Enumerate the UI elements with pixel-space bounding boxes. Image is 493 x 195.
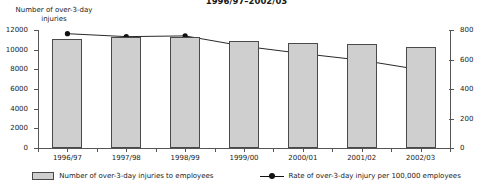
x-tick-boundary	[215, 148, 216, 152]
y-tick-label-left: 0	[24, 144, 28, 152]
y-tick-label-left: 6000	[10, 85, 28, 93]
x-tick	[303, 148, 304, 152]
y-tick-label-left: 12000	[6, 26, 28, 34]
y-axis-title-left: Number of over-3-day injuries	[8, 6, 100, 24]
chart-container: 1996/97–2002/03 Number of over-3-day inj…	[0, 0, 493, 195]
y-tick-label-left: 2000	[10, 124, 28, 132]
y-tick-label-left: 8000	[10, 65, 28, 73]
y-tick-right: 800	[449, 30, 454, 31]
chart-legend: Number of over-3-day injuries to employe…	[0, 172, 493, 180]
x-tick	[244, 148, 245, 152]
x-tick	[67, 148, 68, 152]
x-tick	[421, 148, 422, 152]
x-tick	[185, 148, 186, 152]
legend-bar-swatch-icon	[32, 172, 54, 180]
y-tick-label-left: 10000	[6, 46, 28, 54]
plot-area: 0200040006000800010000120000200400600800…	[38, 30, 450, 148]
bar	[229, 41, 259, 148]
x-tick	[362, 148, 363, 152]
y-tick-left: 4000	[34, 109, 38, 110]
y-tick-right: 400	[449, 89, 454, 90]
x-tick-label: 1997/98	[112, 154, 141, 162]
legend-line-marker-icon	[260, 172, 284, 180]
y-tick-left: 8000	[34, 69, 38, 70]
y-tick-left: 6000	[34, 89, 38, 90]
y-tick-label-left: 4000	[10, 105, 28, 113]
x-tick-label: 2001/02	[347, 154, 376, 162]
bar	[347, 44, 377, 148]
y-tick-left: 12000	[34, 30, 38, 31]
x-tick-label: 2000/01	[288, 154, 317, 162]
legend-label-rate: Rate of over-3-day injury per 100,000 em…	[289, 172, 461, 180]
x-tick	[126, 148, 127, 152]
y-tick-left: 10000	[34, 50, 38, 51]
x-tick-label: 1999/00	[229, 154, 258, 162]
y-tick-label-right: 200	[460, 115, 473, 123]
bar	[406, 47, 436, 148]
x-tick-boundary	[273, 148, 274, 152]
x-tick-boundary	[156, 148, 157, 152]
x-tick-boundary	[332, 148, 333, 152]
bar	[288, 43, 318, 148]
rate-data-point	[65, 31, 70, 36]
x-tick-label: 2002/03	[406, 154, 435, 162]
y-tick-label-right: 400	[460, 85, 473, 93]
y-axis-title-left-line2: injuries	[8, 15, 100, 24]
x-tick-boundary	[97, 148, 98, 152]
x-tick-label: 1998/99	[171, 154, 200, 162]
x-tick-boundary	[391, 148, 392, 152]
y-tick-label-right: 600	[460, 56, 473, 64]
y-tick-right: 200	[449, 119, 454, 120]
bar	[111, 37, 141, 148]
legend-item-rate: Rate of over-3-day injury per 100,000 em…	[260, 172, 461, 180]
y-tick-label-right: 0	[460, 144, 464, 152]
y-tick-left: 2000	[34, 128, 38, 129]
bar	[52, 39, 82, 148]
legend-item-injuries: Number of over-3-day injuries to employe…	[32, 172, 213, 180]
x-tick-boundary	[38, 148, 39, 152]
x-tick-boundary	[450, 148, 451, 152]
y-tick-right: 600	[449, 60, 454, 61]
legend-label-injuries: Number of over-3-day injuries to employe…	[59, 172, 213, 180]
bar	[170, 37, 200, 148]
y-axis-title-left-line1: Number of over-3-day	[8, 6, 100, 15]
y-tick-label-right: 800	[460, 26, 473, 34]
x-tick-label: 1996/97	[53, 154, 82, 162]
